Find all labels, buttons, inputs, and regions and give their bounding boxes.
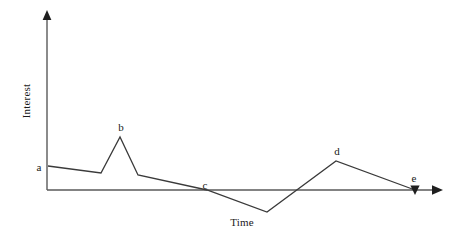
point-label-d: d (334, 145, 340, 157)
y-axis-title: Interest (20, 84, 32, 119)
y-axis-arrowhead (43, 10, 52, 20)
point-label-c: c (203, 179, 208, 191)
point-label-e: e (412, 172, 417, 184)
x-axis-title: Time (230, 216, 254, 228)
point-label-a: a (37, 161, 42, 173)
chart-plot-area (0, 0, 457, 237)
interest-time-chart: Interest Time a b c d e (0, 0, 457, 237)
interest-series-line (48, 137, 415, 212)
x-axis-arrowhead (432, 185, 443, 195)
point-label-b: b (118, 121, 124, 133)
